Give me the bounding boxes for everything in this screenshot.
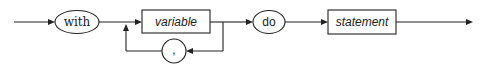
with-terminal: with <box>55 11 99 34</box>
statement-label: statement <box>336 15 389 29</box>
exit-arrow <box>396 19 473 25</box>
do-to-statement-connector <box>285 19 328 25</box>
do-label: do <box>262 15 276 29</box>
with-label: with <box>64 15 91 29</box>
with-to-variable-connector <box>99 19 142 25</box>
variable-nonterminal: variable <box>142 10 210 33</box>
entry-arrow <box>14 19 55 25</box>
with-statement-syntax-diagram: with variable , do <box>0 0 487 66</box>
do-terminal: do <box>253 11 285 34</box>
comma-terminal: , <box>162 39 186 63</box>
comma-label: , <box>172 43 175 57</box>
variable-label: variable <box>155 15 197 29</box>
statement-nonterminal: statement <box>328 10 396 34</box>
variable-to-do-connector <box>223 19 253 25</box>
